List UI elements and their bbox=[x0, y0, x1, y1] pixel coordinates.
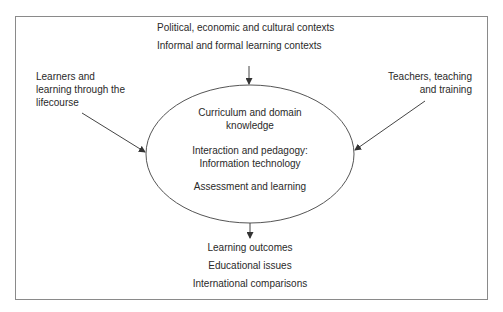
context-learning: Informal and formal learning contexts bbox=[157, 40, 322, 52]
arrow-left-in bbox=[82, 113, 145, 152]
left-input-line-1: Learners and bbox=[36, 71, 95, 83]
context-political: Political, economic and cultural context… bbox=[157, 22, 334, 34]
core-curriculum-line-1: Curriculum and domain bbox=[150, 107, 350, 119]
core-curriculum-line-2: knowledge bbox=[150, 120, 350, 132]
right-input-line-1: Teachers, teaching bbox=[388, 71, 472, 83]
output-learning-outcomes: Learning outcomes bbox=[150, 242, 350, 254]
left-input-line-2: learning through the bbox=[36, 84, 125, 96]
output-international-comparisons: International comparisons bbox=[150, 278, 350, 290]
core-interaction-line-1: Interaction and pedagogy: bbox=[150, 145, 350, 157]
core-assessment: Assessment and learning bbox=[150, 181, 350, 193]
right-input-line-2: and training bbox=[420, 84, 472, 96]
left-input-line-3: lifecourse bbox=[36, 97, 79, 109]
core-interaction-line-2: Information technology bbox=[150, 158, 350, 170]
arrow-right-in bbox=[355, 101, 425, 150]
output-educational-issues: Educational issues bbox=[150, 260, 350, 272]
